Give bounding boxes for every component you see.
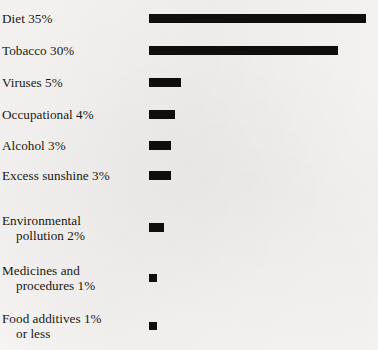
bar-label-line1: Food additives 1% (2, 311, 137, 326)
bar-label-line1: Diet 35% (2, 11, 137, 26)
bar-medicines-and-procedures (149, 274, 157, 282)
bar-label-excess-sunshine: Excess sunshine 3% (2, 168, 137, 183)
bar-label-line1: Excess sunshine 3% (2, 168, 137, 183)
bar-label-occupational: Occupational 4% (2, 107, 137, 122)
bar-label-line1: Medicines and (2, 263, 137, 278)
bar-alcohol (149, 141, 171, 150)
bar-tobacco (149, 46, 338, 55)
bar-label-food-additives: Food additives 1%or less (2, 311, 137, 342)
bar-label-viruses: Viruses 5% (2, 75, 137, 90)
bar-label-line1: Viruses 5% (2, 75, 137, 90)
bar-food-additives (149, 322, 157, 330)
bar-occupational (149, 110, 175, 119)
bar-diet (149, 14, 366, 23)
bar-label-line1: Occupational 4% (2, 107, 137, 122)
bar-label-medicines-and-procedures: Medicines andprocedures 1% (2, 263, 137, 294)
bar-excess-sunshine (149, 171, 171, 180)
bar-chart-figure: Diet 35%Tobacco 30%Viruses 5%Occupationa… (0, 0, 378, 350)
bar-label-environmental-pollution: Environmentalpollution 2% (2, 213, 137, 244)
bar-viruses (149, 78, 181, 87)
bar-label-line2: pollution 2% (2, 228, 137, 243)
bar-label-diet: Diet 35% (2, 11, 137, 26)
bar-label-tobacco: Tobacco 30% (2, 43, 137, 58)
bar-label-line1: Tobacco 30% (2, 43, 137, 58)
bar-label-alcohol: Alcohol 3% (2, 138, 137, 153)
bar-label-line2: procedures 1% (2, 278, 137, 293)
bar-label-line2: or less (2, 326, 137, 341)
bar-label-line1: Alcohol 3% (2, 138, 137, 153)
bar-label-line1: Environmental (2, 213, 137, 228)
bar-environmental-pollution (149, 223, 164, 232)
